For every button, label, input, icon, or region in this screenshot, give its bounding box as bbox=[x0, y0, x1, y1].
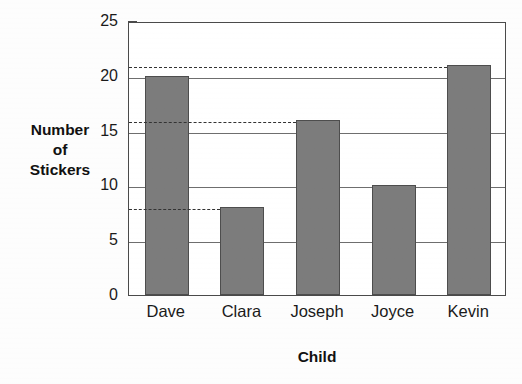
bar-kevin bbox=[447, 65, 491, 295]
y-tick-label-0: 0 bbox=[84, 286, 118, 304]
x-axis-title: Child bbox=[128, 348, 506, 366]
y-axis-title-line-2: of bbox=[8, 140, 112, 160]
bar-joseph bbox=[296, 120, 340, 295]
y-tick-label-20: 20 bbox=[84, 67, 118, 85]
bar-chart-figure: Number of Stickers DaveClaraJosephJoyceK… bbox=[0, 0, 522, 384]
guide-line-joseph bbox=[129, 122, 296, 123]
y-tick-label-25: 25 bbox=[84, 12, 118, 30]
y-tick-label-10: 10 bbox=[84, 176, 118, 194]
x-tick-label-kevin: Kevin bbox=[418, 302, 518, 321]
y-tick-label-5: 5 bbox=[84, 231, 118, 249]
bar-joyce bbox=[372, 185, 416, 295]
guide-line-clara bbox=[129, 209, 220, 210]
guide-line-kevin bbox=[129, 67, 447, 68]
plot-area bbox=[128, 22, 506, 296]
bar-clara bbox=[220, 207, 264, 295]
bar-dave bbox=[145, 76, 189, 295]
y-tick-label-15: 15 bbox=[84, 122, 118, 140]
